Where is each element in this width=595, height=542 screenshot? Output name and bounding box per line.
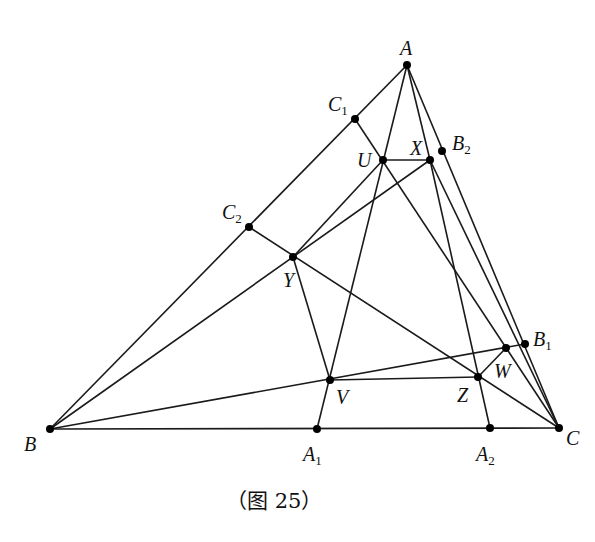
point-A2 [486,424,494,432]
point-A1 [313,425,321,433]
label-Y: Y [283,270,294,290]
label-C1: C1 [328,94,348,117]
label-B: B [24,434,36,454]
point-B [46,425,54,433]
label-U: U [357,150,371,170]
label-X: X [410,138,422,158]
label-W: W [494,361,511,381]
point-A [403,61,411,69]
point-C [555,424,563,432]
label-B1: B1 [533,329,552,352]
point-C1 [351,115,359,123]
segment-X-C [430,160,559,428]
label-A: A [400,38,412,58]
segment-C1-C [355,119,559,428]
label-C: C [566,428,579,448]
label-Z: Z [457,385,468,405]
point-V [326,376,334,384]
point-C2 [245,223,253,231]
point-Z [474,373,482,381]
label-A1: A1 [303,444,322,467]
label-A2: A2 [476,444,495,467]
label-C2: C2 [222,202,242,225]
segment-A-A1 [317,65,407,429]
segment-U-Y [293,160,383,257]
segment-A-C [407,65,559,428]
geometry-diagram [0,0,595,542]
figure-caption: （图 25） [226,484,322,514]
label-B2: B2 [452,133,471,156]
point-B2 [438,147,446,155]
segment-V-Z [330,377,478,380]
line-segments [50,65,559,429]
point-U [379,156,387,164]
label-V: V [336,387,348,407]
point-B1 [521,340,529,348]
point-W [502,344,510,352]
segment-B-C [50,428,559,429]
segment-B-X [50,160,430,429]
point-X [426,156,434,164]
point-Y [289,253,297,261]
